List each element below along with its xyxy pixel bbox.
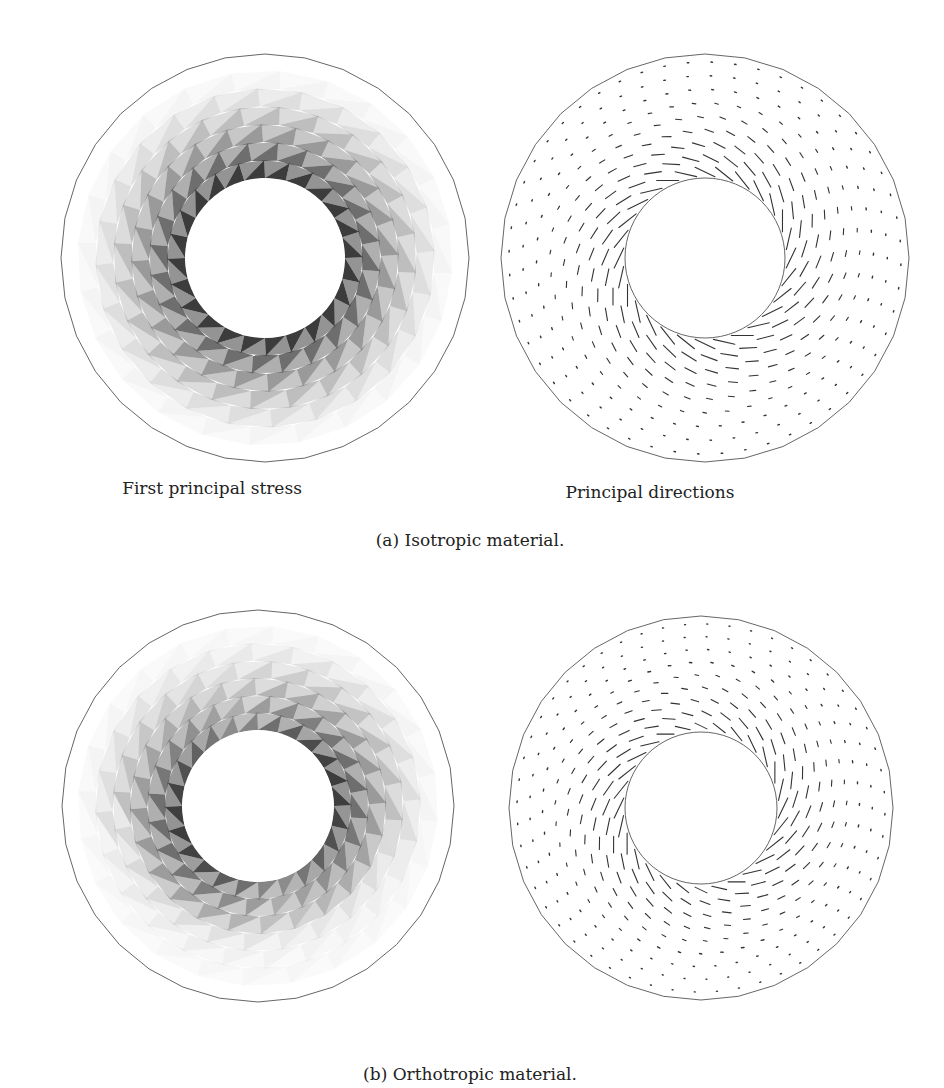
inner-boundary: [625, 178, 785, 338]
inner-hole: [185, 178, 345, 338]
panel-label-principal-directions: Principal directions: [566, 482, 735, 502]
subfigure-caption-b: (b) Orthotropic material.: [363, 1064, 577, 1084]
panel-orthotropic-principal-directions: [507, 614, 895, 1002]
inner-hole: [182, 730, 334, 882]
subfigure-caption-a: (a) Isotropic material.: [376, 530, 565, 550]
inner-boundary: [625, 732, 777, 884]
panel-label-first-principal-stress: First principal stress: [122, 478, 302, 498]
panel-isotropic-first-principal-stress: [59, 52, 471, 464]
panel-isotropic-principal-directions: [499, 52, 911, 464]
panel-orthotropic-first-principal-stress: [60, 608, 456, 1004]
